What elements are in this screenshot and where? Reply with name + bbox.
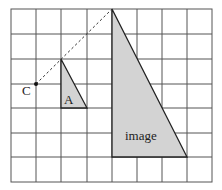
- label-image: image: [125, 128, 157, 143]
- centre-point-c: [34, 82, 38, 86]
- label-a: A: [64, 92, 74, 107]
- ray-dashed-line: [36, 9, 112, 84]
- label-c: C: [22, 83, 31, 98]
- enlargement-diagram: C A image: [0, 0, 222, 190]
